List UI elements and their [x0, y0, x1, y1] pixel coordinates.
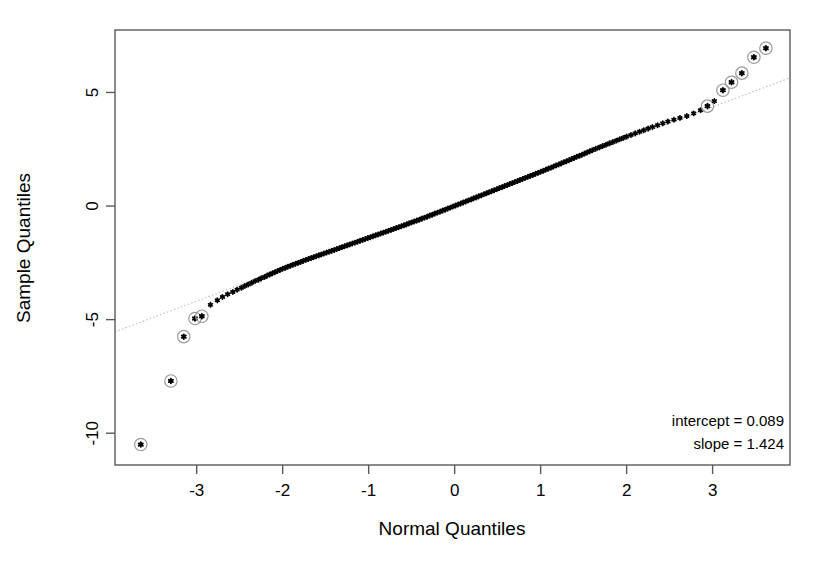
- data-point: [209, 303, 213, 307]
- y-tick-label: -5: [84, 312, 103, 327]
- y-tick-label: -10: [84, 421, 103, 446]
- qq-plot-canvas: -3-2-10123 50-5-10 Normal Quantiles Samp…: [0, 0, 830, 564]
- data-point: [685, 114, 689, 118]
- x-tick-label: 1: [536, 481, 545, 500]
- y-axis-title: Sample Quantiles: [13, 173, 34, 323]
- data-point: [625, 134, 629, 138]
- x-tick-label: 0: [450, 481, 459, 500]
- data-point: [692, 111, 696, 115]
- slope-annotation: slope = 1.424: [694, 435, 785, 452]
- data-point: [666, 119, 670, 123]
- data-point: [672, 118, 676, 122]
- data-point: [633, 131, 637, 135]
- x-tick-label: 3: [708, 481, 717, 500]
- qq-plot-figure: -3-2-10123 50-5-10 Normal Quantiles Samp…: [0, 0, 830, 564]
- data-point: [638, 130, 642, 134]
- x-axis-title: Normal Quantiles: [379, 518, 526, 539]
- data-point: [231, 290, 235, 294]
- x-tick-label: -1: [361, 481, 376, 500]
- data-point: [235, 288, 239, 292]
- data-point: [646, 126, 650, 130]
- data-point: [221, 295, 225, 299]
- data-point: [226, 292, 230, 296]
- data-point: [678, 116, 682, 120]
- data-point: [661, 121, 665, 125]
- intercept-annotation: intercept = 0.089: [672, 412, 784, 429]
- data-point: [216, 298, 220, 302]
- data-point: [642, 128, 646, 132]
- data-point: [651, 125, 655, 129]
- x-tick-label: 2: [622, 481, 631, 500]
- y-tick-label: 5: [84, 88, 103, 97]
- y-tick-label: 0: [84, 201, 103, 210]
- plot-background: [0, 0, 830, 564]
- x-tick-label: -3: [189, 481, 204, 500]
- data-point: [656, 123, 660, 127]
- data-point: [713, 99, 717, 103]
- data-point: [629, 133, 633, 137]
- x-tick-label: -2: [275, 481, 290, 500]
